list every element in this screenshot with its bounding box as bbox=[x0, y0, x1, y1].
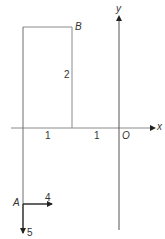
x-axis-arrow-icon bbox=[150, 125, 156, 131]
x-tick-label-1: 1 bbox=[45, 131, 51, 141]
point-b-label: B bbox=[75, 22, 82, 32]
vector-right-label: 4 bbox=[45, 193, 51, 203]
x-tick-label-2: 1 bbox=[94, 131, 100, 141]
x-axis-label: x bbox=[157, 122, 162, 132]
point-a-label: A bbox=[13, 198, 20, 208]
coordinate-diagram bbox=[0, 0, 165, 239]
origin-label: O bbox=[122, 131, 130, 141]
rectangle-height-label: 2 bbox=[64, 70, 70, 80]
vector-down-label: 5 bbox=[27, 228, 33, 238]
y-axis-arrow-icon bbox=[116, 15, 122, 21]
y-axis-label: y bbox=[116, 4, 121, 14]
